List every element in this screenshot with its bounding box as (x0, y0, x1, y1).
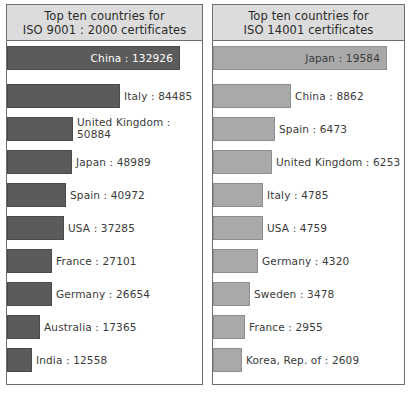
bar (213, 117, 275, 141)
bar-label: Spain : 40972 (66, 189, 145, 201)
chart-title-line-2: ISO 14001 certificates (244, 23, 374, 37)
bar (7, 249, 52, 273)
bar-label: Italy : 84485 (120, 90, 192, 102)
bar (213, 348, 242, 372)
bar (7, 348, 32, 372)
bar-row: Germany : 4320 (213, 244, 404, 277)
bar-rows-iso-9001: China : 132926Italy : 84485United Kingdo… (7, 41, 202, 376)
bar (7, 150, 72, 174)
bar-label: France : 2955 (245, 321, 323, 333)
bar (213, 249, 258, 273)
chart-title-iso-14001: Top ten countries for ISO 14001 certific… (213, 5, 404, 41)
chart-title-line-2: ISO 9001 : 2000 certificates (23, 23, 187, 37)
bar-row: Italy : 84485 (7, 79, 202, 112)
two-panel-bar-chart-figure: Top ten countries for ISO 9001 : 2000 ce… (0, 0, 411, 395)
bar-label: United Kingdom : 50884 (73, 117, 171, 140)
bar-row: Australia : 17365 (7, 310, 202, 343)
bar (213, 150, 272, 174)
bar-label: China : 132926 (91, 52, 179, 64)
bar-label: Germany : 26654 (52, 288, 150, 300)
bar (7, 84, 120, 108)
bar-row: Sweden : 3478 (213, 277, 404, 310)
chart-panel-iso-14001: Top ten countries for ISO 14001 certific… (212, 4, 405, 385)
bar-row: Japan : 48989 (7, 145, 202, 178)
bar (7, 117, 73, 141)
bar-label: Japan : 48989 (72, 156, 151, 168)
bar (213, 183, 263, 207)
bar: China : 132926 (7, 46, 180, 70)
bar-label: Italy : 4785 (263, 189, 329, 201)
bar-row: France : 27101 (7, 244, 202, 277)
chart-title-line-1: Top ten countries for (44, 9, 165, 23)
bar (213, 282, 250, 306)
bar-label: China : 8862 (291, 90, 364, 102)
bar-row: China : 8862 (213, 79, 404, 112)
bar-row: India : 12558 (7, 343, 202, 376)
bar-label: Sweden : 3478 (250, 288, 334, 300)
bar-label: Germany : 4320 (258, 255, 349, 267)
chart-title-line-1: Top ten countries for (248, 9, 369, 23)
bar (7, 315, 40, 339)
bar-row: Italy : 4785 (213, 178, 404, 211)
bar (213, 216, 263, 240)
bar (7, 216, 64, 240)
bar (213, 84, 291, 108)
bar-row: Japan : 19584 (213, 46, 404, 79)
bar-row: France : 2955 (213, 310, 404, 343)
bar-label: Japan : 19584 (305, 52, 386, 64)
bar: Japan : 19584 (213, 46, 387, 70)
bar-row: Spain : 40972 (7, 178, 202, 211)
bar-rows-iso-14001: Japan : 19584China : 8862Spain : 6473Uni… (213, 41, 404, 376)
bar-row: Spain : 6473 (213, 112, 404, 145)
bar (7, 183, 66, 207)
bar-label: France : 27101 (52, 255, 137, 267)
chart-title-iso-9001: Top ten countries for ISO 9001 : 2000 ce… (7, 5, 202, 41)
bar-row: Germany : 26654 (7, 277, 202, 310)
bar-label: Spain : 6473 (275, 123, 347, 135)
bar-row: China : 132926 (7, 46, 202, 79)
bar-label: Australia : 17365 (40, 321, 137, 333)
chart-panel-iso-9001: Top ten countries for ISO 9001 : 2000 ce… (6, 4, 203, 385)
bar (7, 282, 52, 306)
bar-row: United Kingdom : 6253 (213, 145, 404, 178)
bar-label: India : 12558 (32, 354, 107, 366)
bar-row: USA : 4759 (213, 211, 404, 244)
bar-label: Korea, Rep. of : 2609 (242, 354, 359, 366)
bar-row: USA : 37285 (7, 211, 202, 244)
bar-label: USA : 4759 (263, 222, 327, 234)
bar-row: Korea, Rep. of : 2609 (213, 343, 404, 376)
bar-row: United Kingdom : 50884 (7, 112, 202, 145)
bar-label: United Kingdom : 6253 (272, 156, 400, 168)
bar-label: USA : 37285 (64, 222, 135, 234)
bar (213, 315, 245, 339)
